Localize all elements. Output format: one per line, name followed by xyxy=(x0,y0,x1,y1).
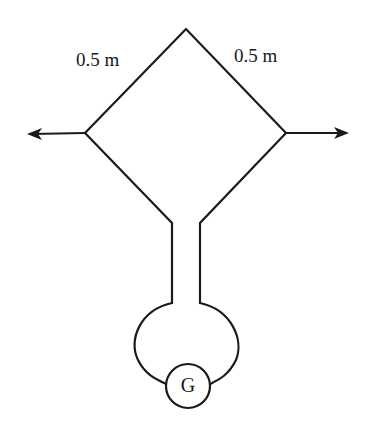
galvanometer-lead-left xyxy=(135,303,172,384)
pull-left-arrow xyxy=(32,133,85,134)
diagram-canvas: 0.5 m 0.5 m G xyxy=(0,0,366,439)
left-length-label: 0.5 m xyxy=(76,49,119,71)
loop-lower-left-edge xyxy=(85,133,172,303)
loop-lower-right-edge xyxy=(200,133,286,303)
galvanometer-label: G xyxy=(173,374,203,397)
right-length-label: 0.5 m xyxy=(234,45,277,67)
